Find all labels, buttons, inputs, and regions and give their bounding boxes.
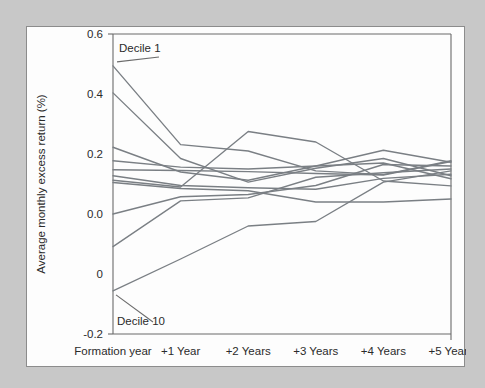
annotation-leader-decile-1 [117,57,159,62]
series-line-1 [113,66,451,175]
chart-plot-area: 0.60.40.20.00-0.2Formation year+1 Year+2… [27,27,466,368]
x-axis-tick-label: +5 Years [428,345,466,357]
y-axis-tick-label: -0.2 [83,328,103,340]
x-axis-tick-label: +2 Years [226,345,271,357]
y-axis-tick-label: 0.0 [87,208,103,220]
series-line-10 [113,169,451,247]
y-axis-tick-label: 0.4 [87,88,104,100]
figure-card: 0.60.40.20.00-0.2Formation year+1 Year+2… [26,26,465,367]
y-axis-tick-label: 0.2 [87,148,103,160]
series-line-5 [113,162,451,176]
series-line-2 [113,93,451,182]
y-axis-title: Average monthly excess return (%) [35,94,47,274]
line-chart: 0.60.40.20.00-0.2Formation year+1 Year+2… [27,27,466,368]
y-axis-tick-label: 0.6 [87,28,103,40]
x-axis-tick-label: +1 Year [161,345,201,357]
annotation-decile-10: Decile 10 [117,315,165,327]
annotation-decile-1: Decile 1 [119,42,161,54]
y-axis-tick-label: 0 [97,268,103,280]
x-axis-tick-label: Formation year [74,345,152,357]
x-axis-tick-label: +3 Years [293,345,338,357]
x-axis-tick-label: +4 Years [361,345,406,357]
